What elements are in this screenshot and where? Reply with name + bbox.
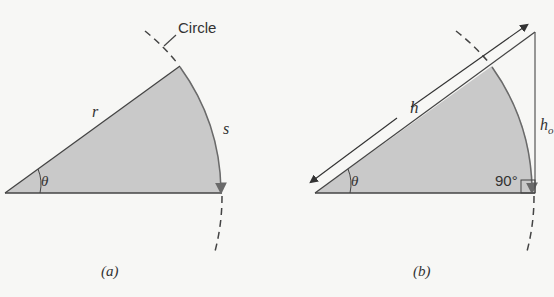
panel-a [5,31,222,255]
opposite-label-sub: o [548,124,554,136]
panel-b [311,25,535,255]
radius-label: r [92,104,98,120]
caption-b: (b) [413,264,431,279]
hypotenuse-label: h [410,99,419,116]
sector-a [5,66,221,193]
caption-a: (a) [101,264,119,279]
circle-label: Circle [178,20,216,35]
angle-label-a: θ [41,174,48,189]
arc-length-label: s [223,121,229,137]
circle-leader-a [164,35,176,46]
circle-dashed-bottom-b [526,196,534,255]
opposite-label-main: h [540,116,548,133]
opposite-label: ho [540,117,554,136]
circle-dashed-bottom-a [214,196,222,255]
circle-dashed-top-a [145,31,178,64]
right-angle-label: 90° [495,173,518,188]
circle-dashed-top-b [456,31,490,64]
angle-label-b: θ [351,174,358,189]
